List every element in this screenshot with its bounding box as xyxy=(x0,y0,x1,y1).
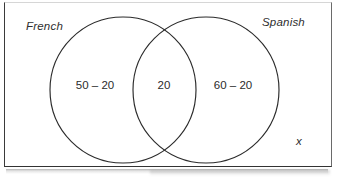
region-value-french-only: 50 – 20 xyxy=(48,79,142,91)
universal-set-label: x xyxy=(296,135,302,147)
region-value-intersection: 20 xyxy=(141,79,187,91)
venn-diagram-figure: French Spanish 50 – 20 20 60 – 20 x xyxy=(0,0,340,178)
region-value-spanish-only: 60 – 20 xyxy=(186,79,280,91)
set-label-spanish: Spanish xyxy=(262,16,305,28)
set-label-french: French xyxy=(26,20,63,32)
